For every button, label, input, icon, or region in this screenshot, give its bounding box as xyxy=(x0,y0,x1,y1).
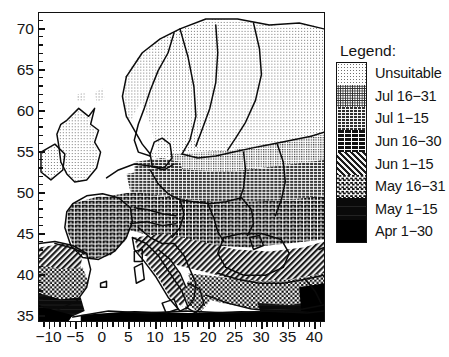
x-minor-tick xyxy=(123,322,124,327)
x-minor-tick xyxy=(272,322,273,327)
x-minor-tick xyxy=(160,322,161,327)
x-minor-tick xyxy=(304,322,305,327)
x-minor-tick xyxy=(91,322,92,327)
y-minor-tick xyxy=(38,159,43,160)
x-minor-tick xyxy=(245,322,246,327)
legend-item-unsuitable: Unsuitable xyxy=(336,62,445,85)
legend-swatch-jun-16-30 xyxy=(336,130,367,153)
legend-item-may-16-31: May 16−31 xyxy=(336,175,445,198)
x-minor-tick xyxy=(65,322,66,327)
y-label-40: 40 xyxy=(2,266,34,284)
legend-item-jun-1-15: Jun 1−15 xyxy=(336,152,445,175)
y-label-55: 55 xyxy=(2,143,34,161)
y-tick-65 xyxy=(38,69,45,71)
legend-swatch-unsuitable xyxy=(336,62,367,85)
y-minor-tick xyxy=(38,217,43,218)
y-minor-tick xyxy=(38,61,43,62)
y-minor-tick xyxy=(38,307,43,308)
x-minor-tick xyxy=(266,322,267,327)
legend-swatch-may-1-15 xyxy=(336,198,367,221)
map-plot-area xyxy=(38,12,325,322)
legend-rows: Unsuitable Jul 16−31 Jul 1−15 Jun 16−30 … xyxy=(336,62,445,243)
y-minor-tick xyxy=(38,143,43,144)
x-minor-tick xyxy=(107,322,108,327)
x-minor-tick xyxy=(282,322,283,327)
x-minor-tick xyxy=(298,322,299,327)
legend-item-apr-1-30: Apr 1−30 xyxy=(336,220,445,243)
legend-swatch-may-16-31 xyxy=(336,175,367,198)
y-tick-35 xyxy=(38,315,45,317)
y-minor-tick xyxy=(38,94,43,95)
y-minor-tick xyxy=(38,225,43,226)
x-minor-tick xyxy=(166,322,167,327)
x-minor-tick xyxy=(251,322,252,327)
y-tick-70 xyxy=(38,28,45,30)
legend-label-may-16-31: May 16−31 xyxy=(375,178,445,194)
y-minor-tick xyxy=(38,118,43,119)
y-minor-tick xyxy=(38,282,43,283)
figure-root: 70 65 60 55 50 45 40 35 xyxy=(0,0,449,357)
y-minor-tick xyxy=(38,126,43,127)
y-label-70: 70 xyxy=(2,20,34,38)
legend-label-apr-1-30: Apr 1−30 xyxy=(375,223,433,239)
y-minor-tick xyxy=(38,290,43,291)
y-minor-tick xyxy=(38,77,43,78)
y-tick-60 xyxy=(38,110,45,112)
x-minor-tick xyxy=(224,322,225,327)
y-minor-tick xyxy=(38,299,43,300)
x-minor-tick xyxy=(43,322,44,327)
legend-label-jun-16-30: Jun 16−30 xyxy=(375,133,441,149)
y-minor-tick xyxy=(38,36,43,37)
legend-label-unsuitable: Unsuitable xyxy=(375,65,442,81)
europe-choropleth-map xyxy=(39,13,324,321)
x-label-40: 40 xyxy=(291,328,337,346)
legend-item-jul-16-31: Jul 16−31 xyxy=(336,85,445,108)
x-minor-tick xyxy=(240,322,241,327)
x-minor-tick xyxy=(118,322,119,327)
y-minor-tick xyxy=(38,20,43,21)
y-minor-tick xyxy=(38,258,43,259)
x-minor-tick xyxy=(81,322,82,327)
x-minor-tick xyxy=(54,322,55,327)
y-label-65: 65 xyxy=(2,61,34,79)
y-tick-50 xyxy=(38,192,45,194)
x-minor-tick xyxy=(70,322,71,327)
y-minor-tick xyxy=(38,102,43,103)
y-label-35: 35 xyxy=(2,307,34,325)
y-tick-40 xyxy=(38,274,45,276)
x-minor-tick xyxy=(293,322,294,327)
legend-label-jul-1-15: Jul 1−15 xyxy=(375,110,429,126)
x-minor-tick xyxy=(134,322,135,327)
y-minor-tick xyxy=(38,241,43,242)
legend-label-jun-1-15: Jun 1−15 xyxy=(375,156,433,172)
legend-item-may-1-15: May 1−15 xyxy=(336,198,445,221)
y-minor-tick xyxy=(38,208,43,209)
x-minor-tick xyxy=(187,322,188,327)
y-minor-tick xyxy=(38,184,43,185)
y-minor-tick xyxy=(38,167,43,168)
y-tick-55 xyxy=(38,151,45,153)
legend-title: Legend: xyxy=(340,42,396,60)
y-label-45: 45 xyxy=(2,225,34,243)
y-minor-tick xyxy=(38,200,43,201)
y-minor-tick xyxy=(38,249,43,250)
y-minor-tick xyxy=(38,53,43,54)
legend-item-jun-16-30: Jun 16−30 xyxy=(336,130,445,153)
x-minor-tick xyxy=(139,322,140,327)
y-label-60: 60 xyxy=(2,102,34,120)
x-minor-tick xyxy=(59,322,60,327)
y-minor-tick xyxy=(38,85,43,86)
legend-label-may-1-15: May 1−15 xyxy=(375,201,437,217)
y-minor-tick xyxy=(38,44,43,45)
legend-swatch-jul-1-15 xyxy=(336,107,367,130)
x-minor-tick xyxy=(171,322,172,327)
x-minor-tick xyxy=(176,322,177,327)
x-minor-tick xyxy=(144,322,145,327)
legend-label-jul-16-31: Jul 16−31 xyxy=(375,88,437,104)
x-minor-tick xyxy=(213,322,214,327)
x-minor-tick xyxy=(320,322,321,327)
x-minor-tick xyxy=(86,322,87,327)
legend-item-jul-1-15: Jul 1−15 xyxy=(336,107,445,130)
y-label-50: 50 xyxy=(2,184,34,202)
x-minor-tick xyxy=(96,322,97,327)
